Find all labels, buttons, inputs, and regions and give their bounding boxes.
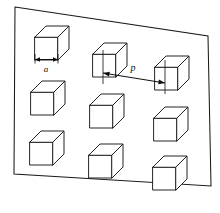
cube-array-figure: a p bbox=[0, 0, 220, 213]
dimension-p-label: p bbox=[130, 62, 136, 73]
cube-r1c3-front-face bbox=[155, 67, 178, 90]
figure-canvas: a p bbox=[0, 0, 220, 213]
cube-r2c1-front-face bbox=[31, 92, 54, 115]
cube-r3c2-front-face bbox=[89, 155, 112, 178]
cube-r3c1-front-face bbox=[30, 142, 53, 165]
dimension-a-label: a bbox=[44, 64, 49, 74]
cube-r1c1-front-face bbox=[35, 37, 58, 60]
cube-r3c3-front-face bbox=[153, 167, 176, 190]
cube-r2c2-front-face bbox=[90, 105, 113, 128]
cube-r2c3-front-face bbox=[154, 118, 177, 141]
